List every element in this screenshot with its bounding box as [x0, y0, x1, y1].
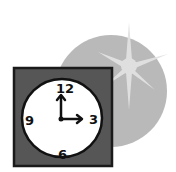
numeral-12: 12	[56, 81, 74, 96]
clock-sun-illustration: 12 3 6 9	[0, 0, 176, 172]
clock-center	[59, 117, 64, 122]
numeral-9: 9	[25, 113, 34, 128]
numeral-3: 3	[89, 112, 98, 127]
numeral-6: 6	[58, 147, 67, 162]
